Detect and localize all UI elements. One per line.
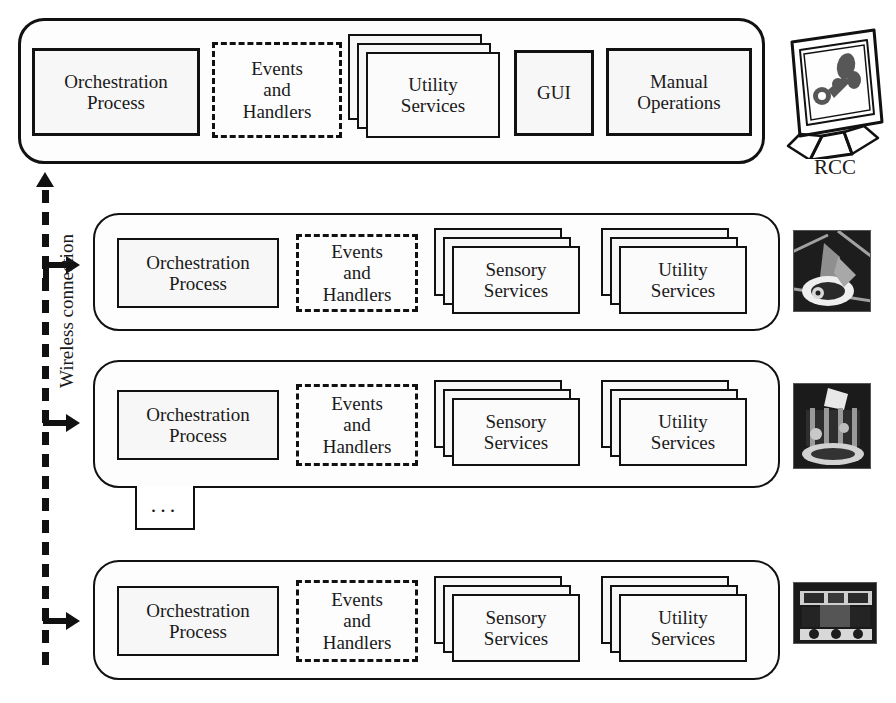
robot-2-orchestration-process-box[interactable]: OrchestrationProcess [117,390,279,460]
rcc-gui-box[interactable]: GUI [514,50,594,136]
rcc-utility-services-stack[interactable]: UtilityServices [348,34,500,138]
robot-2-utility-services-label: UtilityServices [619,398,747,466]
robot-1-events-and-handlers-box[interactable]: EventsandHandlers [296,234,418,312]
robot-1-sensory-services-stack[interactable]: SensoryServices [434,228,580,314]
bus-arrow-robot-n [66,612,80,630]
robot-n-sensory-services-stack[interactable]: SensoryServices [434,576,580,662]
robot-2-sensory-services-stack[interactable]: SensoryServices [434,380,580,466]
wireless-connection-label: Wireless connection [56,206,78,416]
rcc-label: RCC [790,155,880,180]
robot-2-utility-services-stack[interactable]: UtilityServices [601,380,747,466]
robot-photo-2 [793,383,871,469]
bus-arrow-robot-2 [66,414,80,432]
robot-n-orchestration-process-box[interactable]: OrchestrationProcess [117,586,279,656]
robot-1-orchestration-process-box[interactable]: OrchestrationProcess [117,238,279,308]
robot-1-sensory-services-label: SensoryServices [452,246,580,314]
robot-n-events-and-handlers-box[interactable]: EventsandHandlers [296,580,418,662]
wireless-bus-arrow-to-rcc [36,172,54,187]
robot-n-utility-services-label: UtilityServices [619,594,747,662]
robot-n-utility-services-stack[interactable]: UtilityServices [601,576,747,662]
robot-1-utility-services-stack[interactable]: UtilityServices [601,228,747,314]
robot-photo-3 [793,582,877,644]
robot-2-events-and-handlers-box[interactable]: EventsandHandlers [296,384,418,466]
rcc-utility-services-label: UtilityServices [366,52,500,138]
robot-photo-1 [793,230,871,312]
robot-n-sensory-services-label: SensoryServices [452,594,580,662]
rcc-monitor-icon [770,14,890,159]
robot-1-utility-services-label: UtilityServices [619,246,747,314]
rcc-orchestration-process-box[interactable]: OrchestrationProcess [32,48,200,136]
rcc-events-and-handlers-box[interactable]: EventsandHandlers [212,42,342,138]
more-robots-indicator: ... [135,486,195,530]
rcc-manual-operations-box[interactable]: ManualOperations [606,48,752,136]
robot-2-sensory-services-label: SensoryServices [452,398,580,466]
